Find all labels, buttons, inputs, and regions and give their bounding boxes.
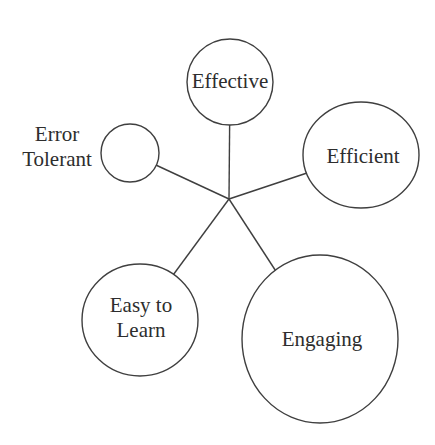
node-label-engaging: Engaging — [282, 327, 363, 351]
node-label-efficient: Efficient — [326, 144, 399, 168]
node-circle-error-tolerant — [101, 124, 159, 182]
node-label-error-tolerant: Error — [35, 122, 79, 146]
node-label-easy-to-learn: Learn — [117, 318, 166, 342]
usability-five-es-diagram: EffectiveEfficientErrorTolerantEasy toLe… — [0, 0, 435, 445]
node-label-effective: Effective — [192, 69, 269, 93]
node-label-easy-to-learn: Easy to — [110, 293, 172, 317]
diagram-canvas: EffectiveEfficientErrorTolerantEasy toLe… — [0, 0, 435, 445]
node-label-error-tolerant: Tolerant — [22, 147, 92, 171]
